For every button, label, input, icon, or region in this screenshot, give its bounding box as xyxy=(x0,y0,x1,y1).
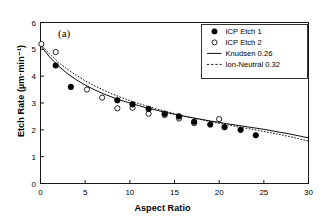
legend-marker-filled-circle xyxy=(212,29,217,34)
y-axis-label: Etch Rate (µm·min⁻¹) xyxy=(16,21,26,161)
data-point-icp-etch-1 xyxy=(53,63,59,69)
y-tick-label: 5 xyxy=(32,45,37,54)
legend-marker-open-circle xyxy=(212,40,217,45)
data-point-icp-etch-1 xyxy=(68,84,74,90)
y-tick-label: 0 xyxy=(32,180,37,189)
data-point-icp-etch-1 xyxy=(207,122,213,128)
y-tick-label: 6 xyxy=(32,19,37,28)
x-tick-label: 20 xyxy=(215,188,224,197)
x-axis-label: Aspect Ratio xyxy=(0,203,325,213)
legend-label-3: Knudsen 0.26 xyxy=(226,49,273,58)
data-point-icp-etch-1 xyxy=(115,98,121,104)
x-tick-label: 10 xyxy=(125,188,134,197)
panel-label: (a) xyxy=(58,27,70,39)
data-point-icp-etch-2 xyxy=(84,87,89,92)
chart-figure: 0510152025300123456ICP Etch 1ICP Etch 2K… xyxy=(0,0,325,220)
y-tick-label: 2 xyxy=(32,126,37,135)
data-point-icp-etch-2 xyxy=(100,95,105,100)
chart-canvas: 0510152025300123456ICP Etch 1ICP Etch 2K… xyxy=(0,0,325,220)
x-tick-label: 30 xyxy=(304,188,313,197)
data-point-icp-etch-2 xyxy=(39,41,44,46)
data-point-icp-etch-1 xyxy=(253,132,259,138)
data-point-icp-etch-1 xyxy=(238,127,244,133)
data-point-icp-etch-1 xyxy=(162,111,168,117)
data-point-icp-etch-2 xyxy=(53,49,58,54)
data-point-icp-etch-1 xyxy=(146,106,152,112)
data-point-icp-etch-2 xyxy=(115,106,120,111)
legend-label-2: ICP Etch 2 xyxy=(226,38,262,47)
x-tick-label: 0 xyxy=(38,188,43,197)
data-point-icp-etch-2 xyxy=(217,117,222,122)
x-tick-label: 25 xyxy=(259,188,268,197)
data-point-icp-etch-1 xyxy=(222,124,228,130)
data-point-icp-etch-1 xyxy=(130,102,136,108)
x-tick-label: 5 xyxy=(83,188,88,197)
y-tick-label: 4 xyxy=(32,72,37,81)
y-tick-label: 3 xyxy=(32,99,37,108)
legend-label-4: Ion-Neutral 0.32 xyxy=(226,60,280,69)
legend-label-1: ICP Etch 1 xyxy=(226,27,262,36)
x-tick-label: 15 xyxy=(170,188,179,197)
data-point-icp-etch-1 xyxy=(191,119,197,125)
y-tick-label: 1 xyxy=(32,153,37,162)
data-point-icp-etch-1 xyxy=(176,114,182,120)
